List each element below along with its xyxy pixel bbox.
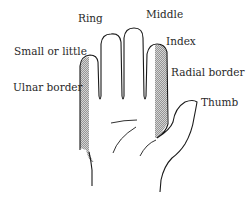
label-index: Index bbox=[166, 36, 196, 47]
hand-diagram: Ring Middle Small or little Index Ulnar … bbox=[0, 0, 251, 202]
ulnar-border-shading bbox=[80, 57, 94, 162]
label-radial-border: Radial border bbox=[171, 67, 244, 78]
radial-border-shading bbox=[155, 45, 167, 138]
palm-crease-upper bbox=[111, 120, 137, 123]
label-middle: Middle bbox=[146, 9, 183, 20]
label-ring: Ring bbox=[78, 13, 103, 24]
label-small-or-little: Small or little bbox=[14, 46, 87, 57]
label-ulnar-border: Ulnar border bbox=[13, 82, 83, 93]
ring-finger-outline bbox=[101, 34, 124, 99]
middle-finger-outline bbox=[124, 28, 147, 99]
palm-crease-middle bbox=[113, 127, 136, 153]
label-thumb: Thumb bbox=[201, 97, 238, 108]
palm-crease-thenar bbox=[140, 140, 156, 156]
